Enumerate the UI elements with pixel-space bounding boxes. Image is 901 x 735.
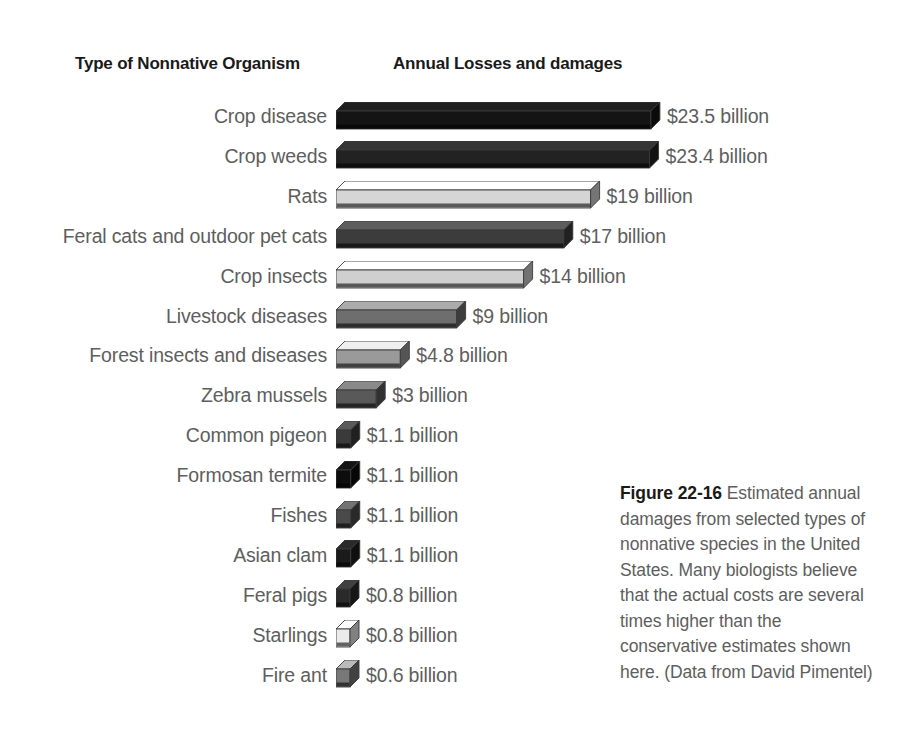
- category-label: Common pigeon: [186, 418, 327, 452]
- value-label: $19 billion: [607, 179, 693, 213]
- figure-number: Figure 22-16: [620, 483, 722, 503]
- chart-row: Zebra mussels$3 billion: [0, 378, 901, 412]
- value-label: $4.8 billion: [416, 338, 507, 372]
- bar-3d: [336, 620, 361, 649]
- value-label: $1.1 billion: [367, 538, 458, 572]
- figure-caption: Figure 22-16 Estimated annual damages fr…: [620, 481, 878, 685]
- category-label: Fire ant: [262, 658, 327, 692]
- chart-row: Crop insects$14 billion: [0, 259, 901, 293]
- value-label: $1.1 billion: [367, 498, 458, 532]
- category-label: Feral pigs: [243, 578, 327, 612]
- category-label: Starlings: [252, 618, 327, 652]
- value-label: $1.1 billion: [367, 418, 458, 452]
- category-label: Crop weeds: [224, 139, 327, 173]
- chart-row: Feral cats and outdoor pet cats$17 billi…: [0, 219, 901, 253]
- value-label: $3 billion: [392, 378, 467, 412]
- chart-row: Common pigeon$1.1 billion: [0, 418, 901, 452]
- value-label: $1.1 billion: [367, 458, 458, 492]
- chart-row: Livestock diseases$9 billion: [0, 299, 901, 333]
- bar-container: [336, 139, 661, 173]
- category-label: Crop insects: [220, 259, 327, 293]
- bar-3d: [336, 461, 362, 490]
- value-label: $0.8 billion: [366, 618, 457, 652]
- category-label: Zebra mussels: [201, 378, 327, 412]
- bar-3d: [336, 301, 468, 330]
- bar-container: [336, 538, 362, 572]
- value-label: $23.4 billion: [666, 139, 768, 173]
- bar-3d: [336, 141, 661, 170]
- value-label: $23.5 billion: [667, 99, 769, 133]
- category-label: Formosan termite: [177, 458, 327, 492]
- bar-container: [336, 219, 575, 253]
- category-label: Crop disease: [214, 99, 327, 133]
- bar-container: [336, 458, 362, 492]
- category-label: Forest insects and diseases: [89, 338, 327, 372]
- value-label: $0.6 billion: [366, 658, 457, 692]
- bar-container: [336, 378, 387, 412]
- bar-container: [336, 259, 535, 293]
- value-label: $14 billion: [540, 259, 626, 293]
- figure-caption-text: Estimated annual damages from selected t…: [620, 483, 873, 682]
- chart-row: Crop disease$23.5 billion: [0, 99, 901, 133]
- bar-container: [336, 99, 662, 133]
- bar-container: [336, 418, 362, 452]
- bar-3d: [336, 261, 535, 290]
- bar-3d: [336, 181, 602, 210]
- bar-3d: [336, 540, 362, 569]
- chart-row: Crop weeds$23.4 billion: [0, 139, 901, 173]
- bar-3d: [336, 660, 361, 689]
- category-label: Asian clam: [233, 538, 327, 572]
- bar-container: [336, 299, 468, 333]
- bar-container: [336, 658, 361, 692]
- bar-container: [336, 618, 361, 652]
- chart-row: Forest insects and diseases$4.8 billion: [0, 338, 901, 372]
- bar-3d: [336, 341, 411, 370]
- bar-container: [336, 179, 602, 213]
- bar-3d: [336, 501, 362, 530]
- bar-container: [336, 338, 411, 372]
- category-label: Rats: [288, 179, 328, 213]
- category-label: Livestock diseases: [166, 299, 327, 333]
- bar-container: [336, 578, 361, 612]
- bar-3d: [336, 421, 362, 450]
- bar-3d: [336, 580, 361, 609]
- bar-3d: [336, 221, 575, 250]
- chart-row: Rats$19 billion: [0, 179, 901, 213]
- category-label: Feral cats and outdoor pet cats: [63, 219, 327, 253]
- category-label: Fishes: [270, 498, 327, 532]
- bar-3d: [336, 381, 387, 410]
- value-label: $0.8 billion: [366, 578, 457, 612]
- value-label: $9 billion: [473, 299, 548, 333]
- bar-container: [336, 498, 362, 532]
- value-label: $17 billion: [580, 219, 666, 253]
- figure-canvas: Type of Nonnative Organism Annual Losses…: [0, 0, 901, 735]
- bar-3d: [336, 102, 662, 131]
